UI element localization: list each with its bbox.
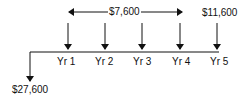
year-label-1: Yr 1 [57,56,75,68]
initial-amount-label: $27,600 [12,84,48,96]
year-label-4: Yr 4 [172,56,190,68]
year-label-5: Yr 5 [210,56,228,68]
year-label-2: Yr 2 [95,56,113,68]
final-amount-label: $11,600 [202,7,237,19]
year-label-3: Yr 3 [133,56,151,68]
recurring-amount-label: $7,600 [109,6,140,18]
